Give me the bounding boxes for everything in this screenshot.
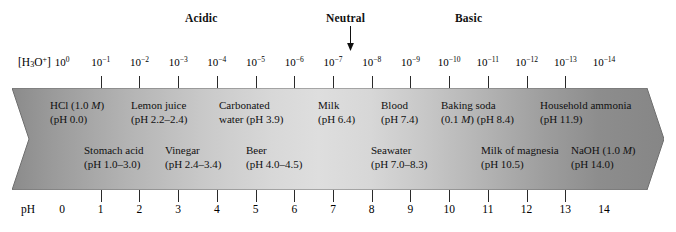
ph-tick-label: 2 xyxy=(137,203,143,215)
substance-ph-value: (pH 4.0–4.5) xyxy=(246,157,303,171)
concentration-tick-label: 10−14 xyxy=(593,55,616,68)
concentration-tick-label: 10−8 xyxy=(362,55,381,68)
substance-name: NaOH (1.0 M) xyxy=(571,144,635,156)
substance-name: Beer xyxy=(246,144,267,156)
ph-tick-mark xyxy=(565,190,566,202)
concentration-tick-label: 100 xyxy=(55,55,70,68)
concentration-axis-label: [H3O+] xyxy=(18,55,51,69)
concentration-tick-mark xyxy=(178,76,179,88)
substance-name: Seawater xyxy=(371,144,411,156)
concentration-tick-mark xyxy=(256,76,257,88)
concentration-tick-mark xyxy=(139,76,140,88)
neutral-arrow-icon xyxy=(344,26,357,51)
concentration-tick-mark xyxy=(101,76,102,88)
substance-ph-value: (pH 2.2–2.4) xyxy=(131,112,188,126)
substance-annotation: Blood(pH 7.4) xyxy=(381,98,418,126)
ph-tick-mark xyxy=(372,190,373,202)
substance-annotation: Carbonatedwater (pH 3.9) xyxy=(219,98,283,126)
substance-ph-value: (pH 10.5) xyxy=(481,157,559,171)
concentration-tick-label: 10−4 xyxy=(207,55,226,68)
ph-tick-mark xyxy=(217,190,218,202)
substance-name: Baking soda xyxy=(441,99,496,111)
concentration-tick-label: 10−10 xyxy=(438,55,461,68)
ph-tick-label: 12 xyxy=(521,203,533,215)
ph-tick-label: 6 xyxy=(291,203,297,215)
substance-annotation: Household ammonia(pH 11.9) xyxy=(540,98,631,126)
substance-ph-value: (pH 6.4) xyxy=(318,112,355,126)
substance-name: Lemon juice xyxy=(131,99,186,111)
substance-ph-value: (0.1 M) (pH 8.4) xyxy=(441,112,514,126)
ph-tick-label: 0 xyxy=(59,203,65,215)
ph-tick-label: 10 xyxy=(443,203,455,215)
substance-annotation: Seawater(pH 7.0–8.3) xyxy=(371,143,428,171)
ph-tick-mark xyxy=(449,190,450,202)
ph-tick-label: 9 xyxy=(408,203,414,215)
concentration-tick-label: 10−3 xyxy=(169,55,188,68)
concentration-tick-mark xyxy=(527,76,528,88)
ph-tick-mark xyxy=(256,190,257,202)
concentration-tick-label: 10−5 xyxy=(246,55,265,68)
substance-name: Stomach acid xyxy=(84,144,144,156)
concentration-tick-mark xyxy=(294,76,295,88)
substance-annotation: Stomach acid(pH 1.0–3.0) xyxy=(84,143,144,171)
concentration-tick-mark xyxy=(333,76,334,88)
concentration-tick-label: 10−2 xyxy=(130,55,149,68)
substance-name: Milk of magnesia xyxy=(481,144,559,156)
substance-ph-value: (pH 0.0) xyxy=(50,112,104,126)
ph-scale-figure: Acidic Neutral Basic [H3O+] pH 10010−110… xyxy=(0,0,676,232)
concentration-tick-mark xyxy=(217,76,218,88)
ph-tick-label: 14 xyxy=(598,203,610,215)
ph-tick-label: 7 xyxy=(330,203,336,215)
ph-tick-mark xyxy=(139,190,140,202)
substance-annotation: Milk(pH 6.4) xyxy=(318,98,355,126)
concentration-tick-label: 10−13 xyxy=(554,55,577,68)
substance-name: Blood xyxy=(381,99,408,111)
ph-tick-label: 3 xyxy=(175,203,181,215)
ph-tick-label: 4 xyxy=(214,203,220,215)
substance-annotation: Vinegar(pH 2.4–3.4) xyxy=(165,143,222,171)
concentration-tick-label: 10−7 xyxy=(324,55,343,68)
ph-tick-mark xyxy=(410,190,411,202)
ph-tick-label: 13 xyxy=(560,203,572,215)
concentration-tick-label: 10−11 xyxy=(477,55,499,68)
substance-annotation: HCl (1.0 M)(pH 0.0) xyxy=(50,98,104,126)
substance-name: Carbonated xyxy=(219,99,270,111)
concentration-tick-mark xyxy=(372,76,373,88)
substance-ph-value: (pH 7.4) xyxy=(381,112,418,126)
substance-annotation: Lemon juice(pH 2.2–2.4) xyxy=(131,98,188,126)
ph-tick-label: 8 xyxy=(369,203,375,215)
region-label-basic: Basic xyxy=(455,12,482,24)
concentration-tick-label: 10−6 xyxy=(285,55,304,68)
concentration-tick-label: 10−9 xyxy=(401,55,420,68)
ph-tick-mark xyxy=(488,190,489,202)
substance-name: HCl (1.0 M) xyxy=(50,99,104,111)
concentration-tick-mark xyxy=(488,76,489,88)
substance-annotation: Baking soda(0.1 M) (pH 8.4) xyxy=(441,98,514,126)
region-label-acidic: Acidic xyxy=(185,12,218,24)
ph-tick-label: 1 xyxy=(98,203,104,215)
substance-ph-value: (pH 14.0) xyxy=(571,157,635,171)
substance-name: Household ammonia xyxy=(540,99,631,111)
concentration-tick-mark xyxy=(565,76,566,88)
ph-tick-mark xyxy=(527,190,528,202)
substance-ph-value: (pH 1.0–3.0) xyxy=(84,157,144,171)
ph-tick-mark xyxy=(101,190,102,202)
concentration-tick-mark xyxy=(410,76,411,88)
substance-annotation: NaOH (1.0 M)(pH 14.0) xyxy=(571,143,635,171)
ph-tick-mark xyxy=(178,190,179,202)
concentration-tick-mark xyxy=(449,76,450,88)
substance-ph-value: (pH 7.0–8.3) xyxy=(371,157,428,171)
region-label-neutral: Neutral xyxy=(326,12,365,24)
ph-tick-label: 11 xyxy=(482,203,493,215)
substance-name: Milk xyxy=(318,99,339,111)
substance-annotation: Milk of magnesia(pH 10.5) xyxy=(481,143,559,171)
substance-ph-value: water (pH 3.9) xyxy=(219,112,283,126)
substance-annotation: Beer(pH 4.0–4.5) xyxy=(246,143,303,171)
ph-tick-mark xyxy=(294,190,295,202)
substance-ph-value: (pH 11.9) xyxy=(540,112,631,126)
concentration-tick-label: 10−12 xyxy=(515,55,538,68)
concentration-tick-label: 10−1 xyxy=(91,55,110,68)
ph-axis-label: pH xyxy=(21,203,35,215)
ph-tick-mark xyxy=(333,190,334,202)
substance-name: Vinegar xyxy=(165,144,200,156)
